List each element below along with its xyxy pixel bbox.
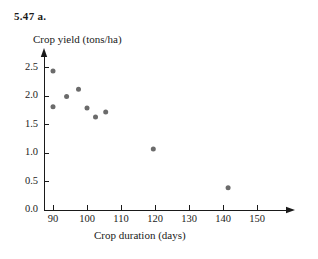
data-point	[85, 105, 90, 110]
data-point	[76, 87, 81, 92]
y-tick-label: 0.5	[14, 175, 38, 186]
y-tick-label: 2.0	[14, 89, 38, 100]
x-tick-label: 140	[211, 213, 235, 224]
data-point	[151, 147, 156, 152]
scatter-plot: 0.00.51.01.52.02.590100110120130140150	[0, 0, 318, 259]
y-axis-arrow	[41, 48, 47, 57]
figure-container: 5.47 a. Crop yield (tons/ha) Crop durati…	[0, 0, 318, 259]
y-tick-label: 0.0	[14, 203, 38, 214]
data-point	[103, 109, 108, 114]
data-point	[226, 185, 231, 190]
y-tick-label: 2.5	[14, 61, 38, 72]
data-points	[51, 68, 231, 190]
y-tick-label: 1.0	[14, 146, 38, 157]
data-point	[51, 104, 56, 109]
x-tick-label: 150	[245, 213, 269, 224]
x-tick-label: 110	[109, 213, 133, 224]
data-point	[64, 94, 69, 99]
x-axis-arrow	[286, 207, 295, 213]
data-point	[93, 115, 98, 120]
y-tick-label: 1.5	[14, 118, 38, 129]
data-point	[51, 68, 56, 73]
x-tick-label: 90	[41, 213, 65, 224]
x-tick-label: 130	[177, 213, 201, 224]
axes	[41, 48, 295, 213]
axis-ticks	[44, 68, 257, 211]
x-tick-label: 100	[75, 213, 99, 224]
x-tick-label: 120	[143, 213, 167, 224]
